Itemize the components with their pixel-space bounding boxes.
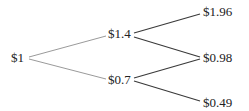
node-root: $1 [11, 51, 24, 65]
edge-root-up [29, 36, 106, 57]
edge-up-upup [134, 14, 200, 33]
edge-root-down [29, 59, 106, 79]
node-down: $0.7 [108, 73, 131, 87]
node-upup: $1.96 [203, 5, 232, 19]
edge-down-mid [134, 59, 200, 78]
edge-up-mid [134, 37, 200, 57]
node-downdown: $0.49 [203, 96, 232, 110]
edge-down-downdown [134, 81, 200, 101]
node-mid: $0.98 [203, 51, 232, 65]
node-up: $1.4 [108, 27, 131, 41]
